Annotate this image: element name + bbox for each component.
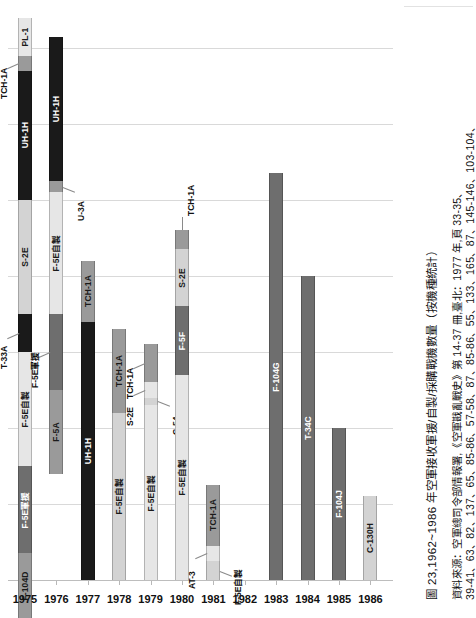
x-axis: 1975197619771978197919801981198219831984… [0,0,400,607]
source-note-line-2: 39-41、63、82、137、65、85-86、57-58、87、85-86、… [465,122,476,600]
x-axis-label-1986: 1986 [347,593,393,605]
top-rule [404,6,473,7]
figure-caption: 圖 23,1962~1986 年空軍接收軍援/自製/採購戰機數量（按機種統計） [427,245,439,600]
source-note-line-1: 資料來源：空軍總司令部情報署,《空軍戡亂戰史》第 14-37 冊,臺北：1977… [452,187,463,600]
